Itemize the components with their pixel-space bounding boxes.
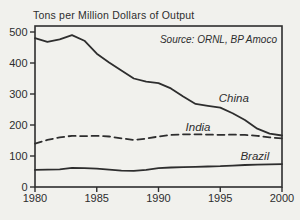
y-tick-label: 400 bbox=[9, 57, 27, 69]
x-tick-label: 1985 bbox=[85, 192, 109, 204]
x-axis: 19801985199019952000 bbox=[23, 187, 294, 204]
x-tick-label: 1990 bbox=[146, 192, 170, 204]
y-axis: 0100200300400500 bbox=[9, 26, 35, 193]
chart-title: Tons per Million Dollars of Output bbox=[33, 9, 194, 21]
chart-canvas: Tons per Million Dollars of Output Sourc… bbox=[0, 0, 300, 220]
carbon-intensity-chart: Tons per Million Dollars of Output Sourc… bbox=[0, 0, 300, 220]
x-tick-label: 2000 bbox=[270, 192, 294, 204]
x-tick-label: 1980 bbox=[23, 192, 47, 204]
y-tick-label: 200 bbox=[9, 119, 27, 131]
series-label-china: China bbox=[219, 92, 249, 104]
y-tick-label: 0 bbox=[21, 181, 27, 193]
plot-border bbox=[35, 26, 282, 187]
y-tick-label: 500 bbox=[9, 26, 27, 38]
source-annotation: Source: ORNL, BP Amoco bbox=[160, 34, 278, 45]
y-tick-label: 100 bbox=[9, 150, 27, 162]
y-tick-label: 300 bbox=[9, 88, 27, 100]
series-label-brazil: Brazil bbox=[240, 150, 269, 162]
series-line-china bbox=[35, 35, 282, 135]
series-labels: ChinaIndiaBrazil bbox=[186, 92, 270, 162]
x-tick-label: 1995 bbox=[208, 192, 232, 204]
series-line-india bbox=[35, 134, 282, 143]
series-line-brazil bbox=[35, 164, 282, 171]
series-label-india: India bbox=[186, 121, 211, 133]
